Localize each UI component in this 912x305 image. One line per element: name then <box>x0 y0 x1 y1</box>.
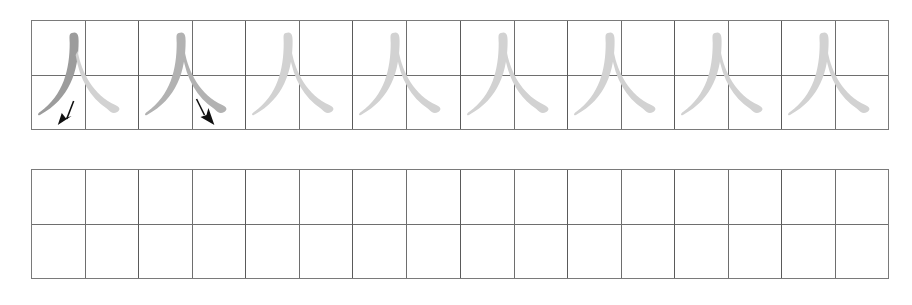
stroke-na <box>504 51 548 113</box>
character-ren-glyph <box>139 21 245 129</box>
tracing-cell-4[interactable] <box>352 21 459 129</box>
tracing-cell-6[interactable] <box>567 21 674 129</box>
stroke-na <box>397 51 441 113</box>
stroke-pie <box>252 32 293 115</box>
stroke-pie <box>467 32 508 115</box>
blank-cell-6[interactable] <box>567 170 674 278</box>
character-ren-glyph <box>568 21 674 129</box>
blank-cell-7[interactable] <box>674 170 781 278</box>
stroke-pie <box>681 32 722 115</box>
character-ren-glyph <box>32 21 138 129</box>
tracing-row <box>31 20 889 130</box>
blank-cell-4[interactable] <box>352 170 459 278</box>
blank-cell-3[interactable] <box>245 170 352 278</box>
horizontal-guide-line <box>461 224 567 225</box>
character-ren-glyph <box>246 21 352 129</box>
stroke-na <box>183 51 227 113</box>
character-ren-glyph <box>353 21 459 129</box>
tracing-cell-3[interactable] <box>245 21 352 129</box>
horizontal-guide-line <box>353 224 459 225</box>
stroke-na <box>290 51 334 113</box>
blank-cell-5[interactable] <box>460 170 567 278</box>
tracing-cell-2[interactable] <box>138 21 245 129</box>
horizontal-guide-line <box>675 224 781 225</box>
character-ren-glyph <box>461 21 567 129</box>
blank-practice-row <box>31 169 889 279</box>
stroke-na <box>718 51 762 113</box>
stroke-pie <box>359 32 400 115</box>
blank-cell-8[interactable] <box>781 170 888 278</box>
stroke-direction-arrow-icon <box>58 101 74 125</box>
stroke-pie <box>145 32 186 115</box>
horizontal-guide-line <box>32 224 138 225</box>
tracing-cell-8[interactable] <box>781 21 888 129</box>
stroke-pie <box>574 32 615 115</box>
stroke-na <box>826 51 870 113</box>
blank-cell-2[interactable] <box>138 170 245 278</box>
character-ren-glyph <box>675 21 781 129</box>
stroke-pie <box>788 32 829 115</box>
horizontal-guide-line <box>246 224 352 225</box>
blank-cell-1[interactable] <box>32 170 138 278</box>
tracing-cell-1[interactable] <box>32 21 138 129</box>
stroke-na <box>611 51 655 113</box>
horizontal-guide-line <box>139 224 245 225</box>
horizontal-guide-line <box>568 224 674 225</box>
tracing-cell-7[interactable] <box>674 21 781 129</box>
horizontal-guide-line <box>782 224 888 225</box>
stroke-na <box>76 51 120 113</box>
character-ren-glyph <box>782 21 888 129</box>
tracing-cell-5[interactable] <box>460 21 567 129</box>
